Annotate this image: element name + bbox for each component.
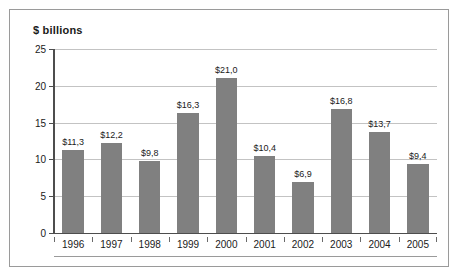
y-tick-label: 25 xyxy=(35,44,46,55)
x-tick-mark xyxy=(360,237,361,242)
bar[interactable] xyxy=(62,150,83,233)
bar[interactable] xyxy=(254,156,275,233)
x-tick-mark xyxy=(246,237,247,242)
x-tick-mark xyxy=(92,237,93,242)
y-tick-label: 20 xyxy=(35,80,46,91)
bar-group[interactable]: $10,4 xyxy=(246,49,284,233)
x-tick-mark xyxy=(284,237,285,242)
x-tick-mark xyxy=(131,237,132,242)
bar[interactable] xyxy=(369,132,390,233)
y-tick-label: 0 xyxy=(40,228,46,239)
x-tick-label: 2003 xyxy=(322,239,360,250)
bar-group[interactable]: $9,4 xyxy=(399,49,437,233)
bar[interactable] xyxy=(177,113,198,233)
bar-value-label: $16,8 xyxy=(330,96,353,106)
chart-title: $ billions xyxy=(33,24,83,36)
bar-value-label: $21,0 xyxy=(215,65,238,75)
x-axis-label-baseline xyxy=(54,256,437,257)
x-tick-label: 1997 xyxy=(92,239,130,250)
plot-area: 0510152025 $11,3$12,2$9,8$16,3$21,0$10,4… xyxy=(54,49,437,233)
x-tick-label: 1999 xyxy=(169,239,207,250)
x-tick-mark xyxy=(54,237,55,242)
x-tick-label: 2002 xyxy=(284,239,322,250)
y-tick-label: 5 xyxy=(40,191,46,202)
bar[interactable] xyxy=(139,161,160,233)
bar-value-label: $13,7 xyxy=(368,119,391,129)
bar-group[interactable]: $11,3 xyxy=(54,49,92,233)
bar-group[interactable]: $21,0 xyxy=(207,49,245,233)
x-tick-label: 2000 xyxy=(207,239,245,250)
bar-value-label: $11,3 xyxy=(62,137,84,147)
bar-group[interactable]: $16,3 xyxy=(169,49,207,233)
bar-value-label: $9,4 xyxy=(409,151,427,161)
bar-value-label: $16,3 xyxy=(177,100,200,110)
x-tick-mark xyxy=(207,237,208,242)
bar-group[interactable]: $12,2 xyxy=(92,49,130,233)
bar-group[interactable]: $16,8 xyxy=(322,49,360,233)
x-axis-line xyxy=(53,233,437,234)
x-tick-mark xyxy=(169,237,170,242)
y-tick-label: 15 xyxy=(35,117,46,128)
x-tick-label: 2005 xyxy=(399,239,437,250)
bar[interactable] xyxy=(292,182,313,233)
y-tick-label: 10 xyxy=(35,154,46,165)
chart-figure: $ billions 0510152025 $11,3$12,2$9,8$16,… xyxy=(9,9,449,267)
x-tick-label: 2001 xyxy=(246,239,284,250)
bar[interactable] xyxy=(216,78,237,233)
bar-value-label: $10,4 xyxy=(253,143,276,153)
bar-group[interactable]: $6,9 xyxy=(284,49,322,233)
bar[interactable] xyxy=(331,109,352,233)
x-tick-label: 1996 xyxy=(54,239,92,250)
x-tick-mark xyxy=(399,237,400,242)
bars-layer: $11,3$12,2$9,8$16,3$21,0$10,4$6,9$16,8$1… xyxy=(54,49,437,233)
x-tick-mark xyxy=(322,237,323,242)
bar-value-label: $6,9 xyxy=(294,169,312,179)
bar[interactable] xyxy=(407,164,428,233)
bar-group[interactable]: $9,8 xyxy=(131,49,169,233)
bar-value-label: $9,8 xyxy=(141,148,159,158)
y-tick-mark xyxy=(49,233,54,234)
x-axis-labels: 1996199719981999200020012002200320042005 xyxy=(54,237,437,257)
x-tick-mark xyxy=(436,237,437,242)
x-tick-label: 2004 xyxy=(360,239,398,250)
bar-group[interactable]: $13,7 xyxy=(360,49,398,233)
x-tick-label: 1998 xyxy=(131,239,169,250)
bar[interactable] xyxy=(101,143,122,233)
bar-value-label: $12,2 xyxy=(100,130,123,140)
